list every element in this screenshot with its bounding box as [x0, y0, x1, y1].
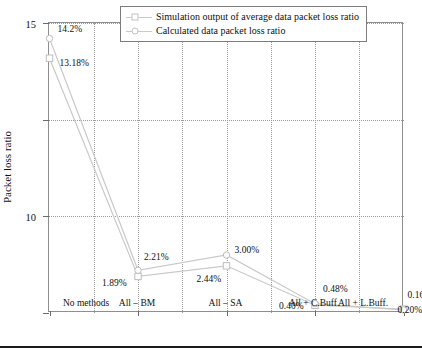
- x-axis-tick-label: No methods: [63, 298, 109, 308]
- data-point-label: 13.18%: [60, 58, 89, 68]
- legend-item-calculated: Calculated data packet loss ratio: [126, 24, 359, 38]
- data-point-label: 0.16%: [408, 290, 422, 300]
- circle-marker-icon: [126, 25, 152, 37]
- square-marker-icon: [126, 11, 152, 23]
- data-point-label: 2.44%: [197, 274, 222, 284]
- circle-marker-icon: [135, 267, 141, 273]
- data-point-label: 0.20%: [398, 305, 422, 315]
- y-axis-tick-label: 15: [26, 19, 37, 30]
- plot-area: 051015 13.18%1.89%2.44%0.40%0.20%14.2%2.…: [48, 22, 403, 312]
- y-axis-title: Packet loss ratio: [1, 131, 13, 203]
- chart-figure: Packet loss ratio 051015 13.18%1.89%2.44…: [0, 0, 422, 356]
- square-marker-icon: [135, 273, 141, 279]
- bottom-divider: [0, 346, 422, 348]
- circle-marker-icon: [223, 252, 229, 258]
- legend-item-simulation: Simulation output of average data packet…: [126, 10, 359, 24]
- square-marker-icon: [223, 263, 229, 269]
- data-point-label: 2.21%: [144, 252, 169, 262]
- x-axis-tick-label: All + C.Buff.: [289, 298, 340, 308]
- legend: Simulation output of average data packet…: [120, 6, 367, 42]
- y-axis-tick: 0: [43, 313, 49, 314]
- series-line: [50, 58, 404, 309]
- x-axis-tick-label: All + L.Buff.: [338, 298, 388, 308]
- legend-label-calculated: Calculated data packet loss ratio: [156, 25, 285, 37]
- x-axis-tick-label: All – BM: [119, 298, 155, 308]
- data-point-label: 3.00%: [235, 245, 260, 255]
- data-point-label: 0.48%: [323, 284, 348, 294]
- x-axis-tick-label: All – SA: [209, 298, 243, 308]
- circle-marker-icon: [46, 35, 52, 41]
- data-point-label: 14.2%: [58, 24, 83, 34]
- y-axis-tick-label: 10: [26, 212, 37, 223]
- series-lines: [49, 23, 404, 313]
- square-marker-icon: [46, 55, 52, 61]
- data-point-label: 1.89%: [102, 278, 127, 288]
- legend-label-simulation: Simulation output of average data packet…: [156, 11, 359, 23]
